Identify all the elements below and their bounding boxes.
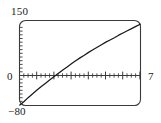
y-axis-ticks	[20, 27, 23, 101]
x-max-tick-label: 7	[148, 71, 154, 82]
data-curve	[20, 24, 140, 105]
y-max-tick-label: 150	[11, 6, 28, 17]
y-min-tick-label: −80	[8, 106, 26, 117]
graphing-calculator-plot: 150 −80 0 7	[0, 0, 161, 123]
x-min-tick-label: 0	[7, 71, 13, 82]
